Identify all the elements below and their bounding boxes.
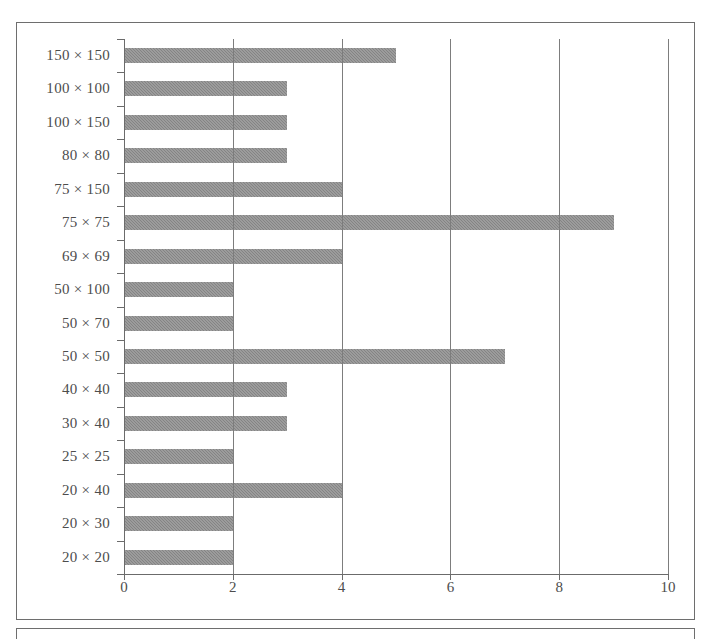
- bar-row: [124, 407, 668, 440]
- category-label: 30 × 40: [17, 407, 117, 440]
- gridline-2: [233, 39, 234, 574]
- bar-row: [124, 541, 668, 574]
- category-label: 75 × 75: [17, 206, 117, 239]
- category-axis-labels: 150 × 150100 × 100100 × 15080 × 8075 × 1…: [17, 39, 117, 574]
- category-label: 25 × 25: [17, 440, 117, 473]
- category-label: 50 × 100: [17, 273, 117, 306]
- bar-row: [124, 72, 668, 105]
- bar[interactable]: [124, 382, 287, 397]
- bar[interactable]: [124, 349, 505, 364]
- y-tick: [117, 407, 124, 408]
- bar-row: [124, 507, 668, 540]
- bar-row: [124, 307, 668, 340]
- category-label: 50 × 70: [17, 307, 117, 340]
- bar-row: [124, 173, 668, 206]
- x-tick-label: 4: [338, 579, 346, 596]
- bar[interactable]: [124, 516, 233, 531]
- y-tick: [117, 507, 124, 508]
- y-tick: [117, 307, 124, 308]
- bar-row: [124, 106, 668, 139]
- bar-row: [124, 240, 668, 273]
- x-axis-line: [124, 574, 668, 575]
- bar[interactable]: [124, 115, 287, 130]
- category-label: 50 × 50: [17, 340, 117, 373]
- figure-page: 150 × 150100 × 100100 × 15080 × 8075 × 1…: [0, 0, 712, 639]
- y-tick: [117, 206, 124, 207]
- bar[interactable]: [124, 48, 396, 63]
- value-axis-labels: 0246810: [124, 579, 668, 605]
- chart-frame: 150 × 150100 × 100100 × 15080 × 8075 × 1…: [16, 22, 695, 620]
- y-tick: [117, 373, 124, 374]
- x-tick-label: 8: [555, 579, 563, 596]
- y-tick: [117, 72, 124, 73]
- bar-row: [124, 39, 668, 72]
- category-label: 150 × 150: [17, 39, 117, 72]
- category-label: 20 × 30: [17, 507, 117, 540]
- horizontal-bar-chart: 150 × 150100 × 100100 × 15080 × 8075 × 1…: [17, 23, 696, 621]
- y-tick: [117, 474, 124, 475]
- category-label: 20 × 20: [17, 541, 117, 574]
- category-label: 75 × 150: [17, 173, 117, 206]
- y-tick: [117, 574, 124, 575]
- y-tick: [117, 173, 124, 174]
- bar[interactable]: [124, 449, 233, 464]
- bar[interactable]: [124, 550, 233, 565]
- x-tick-label: 10: [661, 579, 676, 596]
- y-tick: [117, 240, 124, 241]
- bar[interactable]: [124, 215, 614, 230]
- category-label: 100 × 150: [17, 106, 117, 139]
- category-label: 20 × 40: [17, 474, 117, 507]
- x-tick-label: 6: [447, 579, 455, 596]
- bar-row: [124, 139, 668, 172]
- plot-area: [124, 39, 668, 574]
- gridline-4: [342, 39, 343, 574]
- bar-row: [124, 206, 668, 239]
- y-tick: [117, 139, 124, 140]
- bar-row: [124, 440, 668, 473]
- x-tick-label: 0: [120, 579, 128, 596]
- y-tick: [117, 273, 124, 274]
- y-tick: [117, 440, 124, 441]
- lower-frame: [16, 628, 695, 639]
- y-tick: [117, 39, 124, 40]
- x-tick-label: 2: [229, 579, 237, 596]
- category-label: 69 × 69: [17, 240, 117, 273]
- bar[interactable]: [124, 416, 287, 431]
- bar-row: [124, 340, 668, 373]
- bar[interactable]: [124, 148, 287, 163]
- bar[interactable]: [124, 282, 233, 297]
- bar[interactable]: [124, 316, 233, 331]
- bar[interactable]: [124, 81, 287, 96]
- category-label: 100 × 100: [17, 72, 117, 105]
- gridline-0: [124, 39, 125, 574]
- bar-row: [124, 373, 668, 406]
- y-tick: [117, 340, 124, 341]
- y-tick: [117, 106, 124, 107]
- category-label: 80 × 80: [17, 139, 117, 172]
- gridline-6: [450, 39, 451, 574]
- bar-rows: [124, 39, 668, 574]
- bar-row: [124, 273, 668, 306]
- gridline-10: [668, 39, 669, 574]
- category-label: 40 × 40: [17, 373, 117, 406]
- gridline-8: [559, 39, 560, 574]
- bar-row: [124, 474, 668, 507]
- y-tick: [117, 541, 124, 542]
